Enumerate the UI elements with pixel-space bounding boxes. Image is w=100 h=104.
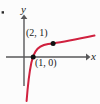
- corner-bullet-mark: [2, 11, 4, 13]
- point-marker-2-1: [51, 41, 56, 46]
- y-axis-arrow-icon: [21, 15, 28, 20]
- x-axis-label: x: [91, 51, 96, 62]
- point-label-1-0: (1, 0): [35, 58, 57, 68]
- y-axis-label: y: [21, 4, 26, 15]
- point-label-2-1: (2, 1): [26, 28, 48, 38]
- figure-container: y x (2, 1) (1, 0): [0, 0, 100, 104]
- logarithmic-curve: [27, 36, 95, 101]
- x-axis-arrow-icon: [86, 54, 91, 61]
- logarithmic-curve-figure: [0, 0, 100, 104]
